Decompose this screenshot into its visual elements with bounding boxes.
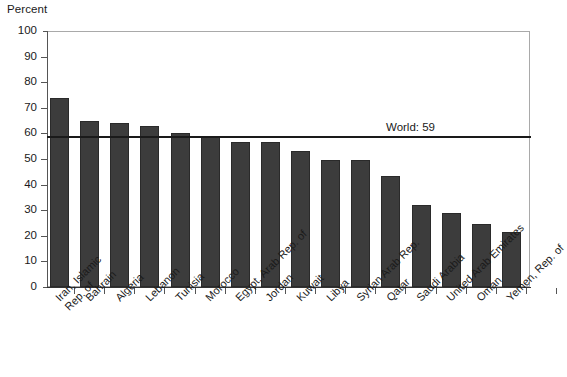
x-axis-label: Qatar	[384, 276, 413, 305]
x-axis-label: Libya	[324, 276, 352, 304]
x-axis-label: Yemen, Rep. of	[504, 242, 567, 305]
x-axis-label: Kuwait	[294, 272, 327, 305]
x-tick-mark	[556, 288, 557, 294]
